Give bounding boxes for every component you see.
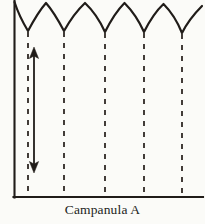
corolla-margin-curve — [15, 2, 203, 33]
campanula-diagram — [0, 0, 205, 205]
scallop-curve-group — [15, 2, 203, 33]
axes-group — [14, 1, 204, 198]
figure-caption: Campanula A — [0, 202, 205, 218]
figure-container: Campanula A — [0, 0, 205, 224]
division-lines-group — [28, 32, 182, 197]
measurement-arrow-group — [29, 47, 38, 173]
